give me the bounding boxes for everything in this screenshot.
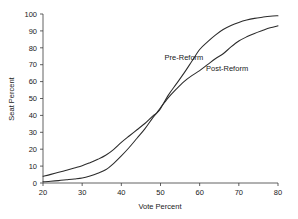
x-axis-ticks: 20304050607080 xyxy=(39,183,282,197)
x-tick-label: 70 xyxy=(235,188,243,197)
x-tick-label: 80 xyxy=(274,188,282,197)
y-tick-label: 70 xyxy=(29,60,37,69)
chart-container: 0102030405060708090100 20304050607080 Pr… xyxy=(0,0,298,219)
y-tick-label: 80 xyxy=(29,44,37,53)
data-series-group xyxy=(43,16,278,182)
y-tick-label: 100 xyxy=(24,10,37,19)
line-chart-plot: 0102030405060708090100 20304050607080 Pr… xyxy=(0,0,298,219)
series-curve-post-reform xyxy=(43,26,278,182)
y-tick-label: 60 xyxy=(29,77,37,86)
series-curve-pre-reform xyxy=(43,16,278,177)
y-tick-label: 40 xyxy=(29,111,37,120)
x-axis-title: Vote Percent xyxy=(139,202,183,211)
x-tick-label: 30 xyxy=(78,188,86,197)
y-axis-ticks: 0102030405060708090100 xyxy=(24,10,43,188)
y-tick-label: 90 xyxy=(29,27,37,36)
y-tick-label: 30 xyxy=(29,128,37,137)
x-tick-label: 50 xyxy=(156,188,164,197)
y-tick-label: 10 xyxy=(29,162,37,171)
series-label-post-reform: Post-Reform xyxy=(206,64,248,73)
y-tick-label: 20 xyxy=(29,145,37,154)
y-tick-label: 0 xyxy=(33,179,37,188)
x-tick-label: 20 xyxy=(39,188,47,197)
series-annotations: Pre-ReformPost-Reform xyxy=(165,53,249,74)
series-label-pre-reform: Pre-Reform xyxy=(165,53,204,62)
y-tick-label: 50 xyxy=(29,94,37,103)
x-tick-label: 40 xyxy=(117,188,125,197)
y-axis-title: Seat Percent xyxy=(7,76,16,120)
x-tick-label: 60 xyxy=(195,188,203,197)
